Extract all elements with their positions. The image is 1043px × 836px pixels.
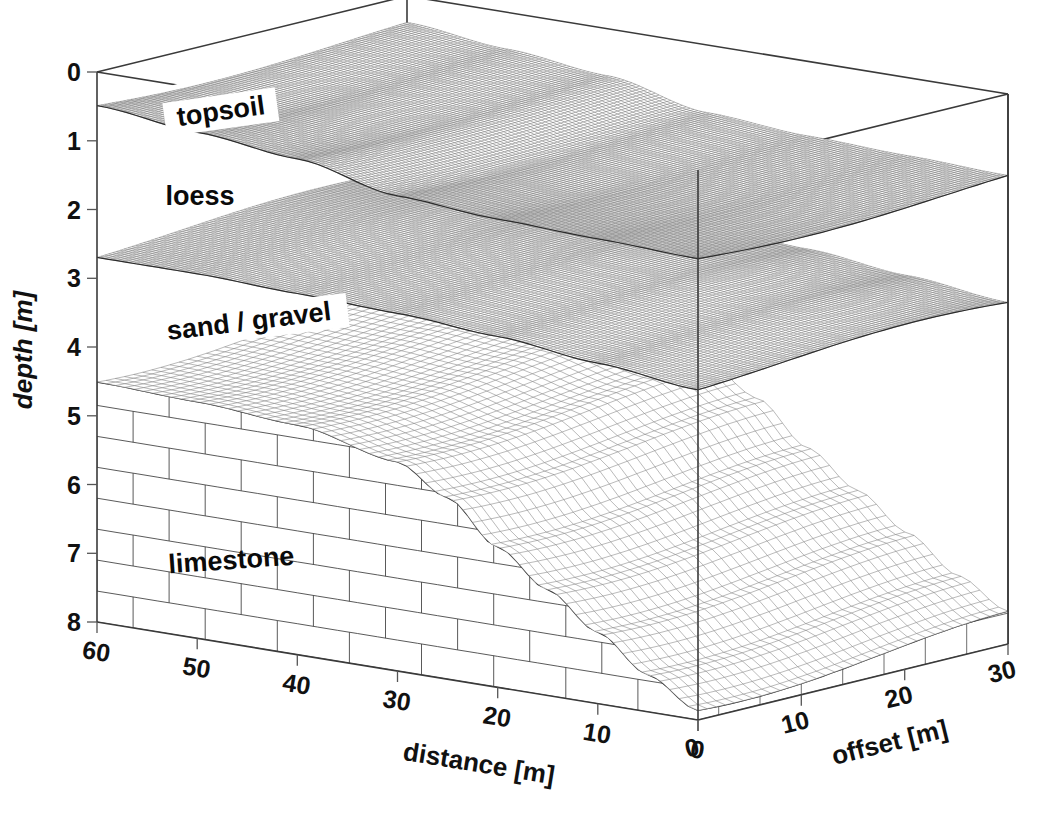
distance-tick-40: 40 xyxy=(281,668,313,700)
distance-tick-10: 10 xyxy=(581,717,613,749)
distance-tick-20: 20 xyxy=(481,700,513,732)
depth-tick-4: 4 xyxy=(67,333,81,361)
distance-tick-60: 60 xyxy=(80,635,112,667)
geological-block-diagram: 012345678depth [m] 6050403020100distance… xyxy=(0,0,1043,836)
depth-tick-8: 8 xyxy=(67,608,81,636)
layer-label-loess: loess xyxy=(165,181,234,211)
depth-tick-0: 0 xyxy=(67,58,81,86)
depth-tick-3: 3 xyxy=(67,264,81,292)
layer-label-text-loess: loess xyxy=(165,181,234,211)
figure-canvas: 012345678depth [m] 6050403020100distance… xyxy=(0,0,1043,836)
depth-tick-7: 7 xyxy=(67,539,81,567)
distance-tick-30: 30 xyxy=(381,684,413,716)
depth-axis-title: depth [m] xyxy=(8,289,38,409)
depth-tick-2: 2 xyxy=(67,196,81,224)
distance-tick-50: 50 xyxy=(181,651,213,683)
depth-tick-5: 5 xyxy=(67,402,81,430)
depth-tick-1: 1 xyxy=(67,127,81,155)
depth-tick-6: 6 xyxy=(67,471,81,499)
